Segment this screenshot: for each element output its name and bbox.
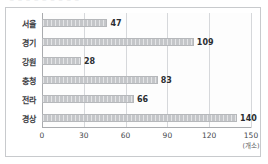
bar-row: 충청83 <box>42 71 251 90</box>
bar-value-0: 47 <box>110 18 121 27</box>
bar-3: 83 <box>42 76 158 84</box>
x-axis-baseline <box>42 127 251 128</box>
category-label-2: 강원 <box>22 55 36 66</box>
x-tick-30: 30 <box>79 131 89 140</box>
gridline-150 <box>251 13 252 128</box>
bar-1: 109 <box>42 38 194 46</box>
clipped-header-text: ‾ ‾ ‾ ‾ ‾ ‾ ‾ ‾ ‾ <box>0 0 268 6</box>
category-label-0: 서울 <box>22 17 36 28</box>
x-tick-0: 0 <box>40 131 45 140</box>
bar-row: 경상140 <box>42 109 251 128</box>
category-label-5: 경상 <box>22 113 36 124</box>
x-tick-150: 150 <box>244 131 258 140</box>
x-tick-60: 60 <box>121 131 131 140</box>
bar-value-4: 66 <box>137 95 148 104</box>
bar-value-3: 83 <box>161 76 172 85</box>
plot-area: 서울47경기109강원28충청83전라66경상140 0306090120150… <box>42 13 251 128</box>
bar-value-2: 28 <box>84 56 95 65</box>
category-label-1: 경기 <box>22 36 36 47</box>
bar-2: 28 <box>42 57 81 65</box>
category-label-3: 충청 <box>22 75 36 86</box>
bar-0: 47 <box>42 19 107 27</box>
x-axis-unit-label: (개소) <box>242 140 259 150</box>
x-tick-90: 90 <box>163 131 173 140</box>
bar-row: 경기109 <box>42 32 251 51</box>
bar-value-5: 140 <box>240 114 257 123</box>
x-tick-120: 120 <box>202 131 216 140</box>
chart-frame: 서울47경기109강원28충청83전라66경상140 0306090120150… <box>5 7 261 157</box>
bar-row: 전라66 <box>42 90 251 109</box>
bar-4: 66 <box>42 95 134 103</box>
bar-row: 강원28 <box>42 51 251 70</box>
category-label-4: 전라 <box>22 94 36 105</box>
bar-value-1: 109 <box>197 37 214 46</box>
bar-row: 서울47 <box>42 13 251 32</box>
bar-5: 140 <box>42 114 237 122</box>
